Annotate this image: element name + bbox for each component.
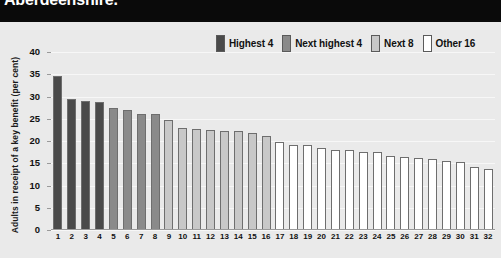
bar: [81, 101, 90, 230]
bar-slot: [259, 52, 273, 230]
y-axis-ticklabel: 25: [0, 113, 40, 124]
bar-slot: [231, 52, 245, 230]
legend-swatch-icon: [282, 35, 291, 52]
y-axis-ticklabel: 40: [0, 46, 40, 57]
plot-area: 0510152025303540: [51, 52, 495, 230]
bar-slot: [218, 52, 232, 230]
y-axis-ticklabel: 5: [0, 202, 40, 213]
bar: [248, 133, 257, 230]
bar-slot: [426, 52, 440, 230]
y-axis-ticklabel: 0: [0, 224, 40, 235]
y-axis-ticklabel: 30: [0, 91, 40, 102]
bar-slot: [453, 52, 467, 230]
x-axis-ticklabel: 19: [301, 232, 315, 241]
bar: [220, 131, 229, 230]
title-band: Aberdeenshire.: [0, 0, 501, 22]
x-axis-ticklabel: 25: [384, 232, 398, 241]
x-axis-ticklabel: 15: [245, 232, 259, 241]
bar-slot: [65, 52, 79, 230]
page-title: Aberdeenshire.: [4, 0, 118, 9]
x-axis-ticklabel: 7: [134, 232, 148, 241]
bar: [359, 152, 368, 230]
x-axis-ticklabel: 20: [315, 232, 329, 241]
bar-slot: [190, 52, 204, 230]
bar: [484, 169, 493, 230]
bar: [262, 136, 271, 230]
x-axis-ticklabel: 5: [107, 232, 121, 241]
bar-slot: [273, 52, 287, 230]
bar-slot: [204, 52, 218, 230]
bar-slot: [467, 52, 481, 230]
bar: [151, 114, 160, 230]
bar-series: [51, 52, 495, 230]
bar: [137, 114, 146, 230]
legend-item: Next highest 4: [282, 35, 362, 52]
y-axis-ticklabel: 20: [0, 135, 40, 146]
legend-swatch-icon: [216, 35, 225, 52]
x-axis-ticklabel: 23: [356, 232, 370, 241]
bar: [275, 142, 284, 230]
y-axis-ticklabel: 10: [0, 180, 40, 191]
x-axis-ticklabel: 10: [176, 232, 190, 241]
bar: [164, 120, 173, 230]
bar-slot: [287, 52, 301, 230]
bar-slot: [245, 52, 259, 230]
legend-swatch-icon: [423, 35, 432, 52]
x-axis-ticklabel: 14: [231, 232, 245, 241]
bar-slot: [342, 52, 356, 230]
x-axis-ticklabel: 16: [259, 232, 273, 241]
bar: [123, 110, 132, 230]
x-axis-ticklabel: 13: [218, 232, 232, 241]
x-axis-ticklabel: 1: [51, 232, 65, 241]
bar: [178, 128, 187, 230]
x-axis-ticklabel: 11: [190, 232, 204, 241]
x-axis-ticklabel: 22: [342, 232, 356, 241]
bar-slot: [93, 52, 107, 230]
bar-slot: [148, 52, 162, 230]
bar-slot: [440, 52, 454, 230]
bar: [414, 158, 423, 230]
bar: [345, 150, 354, 230]
bar: [386, 156, 395, 230]
bar-slot: [176, 52, 190, 230]
gridline: [51, 230, 495, 231]
chart-panel: Highest 4Next highest 4Next 8Other 16 Ad…: [0, 22, 501, 258]
x-axis-ticklabel: 28: [426, 232, 440, 241]
bar-slot: [301, 52, 315, 230]
bar-slot: [370, 52, 384, 230]
bar: [470, 167, 479, 230]
bar: [95, 102, 104, 230]
bar: [331, 150, 340, 230]
bar: [206, 130, 215, 230]
x-axis-ticklabel: 26: [398, 232, 412, 241]
bar-slot: [79, 52, 93, 230]
bar-slot: [120, 52, 134, 230]
bar: [192, 129, 201, 230]
bar: [234, 131, 243, 230]
x-axis-ticklabel: 3: [79, 232, 93, 241]
bar-slot: [329, 52, 343, 230]
y-axis-tickmark: [47, 230, 51, 231]
bar: [400, 157, 409, 230]
legend-label: Highest 4: [229, 38, 273, 49]
x-axis-ticklabel: 9: [162, 232, 176, 241]
legend-swatch-icon: [371, 35, 380, 52]
bar-slot: [315, 52, 329, 230]
y-axis-ticklabel: 15: [0, 157, 40, 168]
bar: [109, 108, 118, 230]
bar: [317, 148, 326, 230]
legend-label: Other 16: [436, 38, 476, 49]
legend-label: Next 8: [384, 38, 413, 49]
x-axis-ticklabel: 6: [120, 232, 134, 241]
legend-item: Next 8: [371, 35, 413, 52]
bar: [373, 152, 382, 230]
chart-figure: Aberdeenshire. Highest 4Next highest 4Ne…: [0, 0, 501, 258]
x-axis-ticklabel: 8: [148, 232, 162, 241]
bar-slot: [481, 52, 495, 230]
bar-slot: [384, 52, 398, 230]
x-axis-ticklabel: 32: [481, 232, 495, 241]
y-axis-ticklabel: 35: [0, 68, 40, 79]
bar: [53, 76, 62, 230]
bar: [442, 161, 451, 230]
x-axis-ticklabel: 31: [467, 232, 481, 241]
